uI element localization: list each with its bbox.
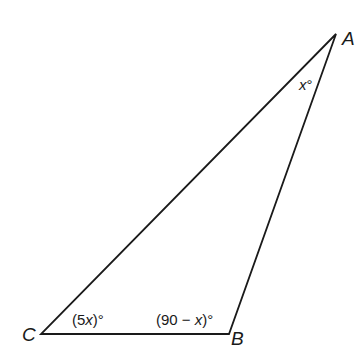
angle-c-prefix: (5 [72, 311, 85, 328]
vertex-label-c: C [22, 324, 36, 345]
vertex-label-b: B [231, 328, 244, 349]
vertex-label-a: A [341, 28, 355, 49]
triangle-abc [41, 34, 336, 334]
angle-a-suffix: ° [307, 76, 313, 93]
angle-label-b: (90 − x)° [156, 311, 213, 328]
angle-label-c: (5x)° [72, 311, 104, 328]
angle-b-prefix: (90 − [156, 311, 195, 328]
angle-label-a: x° [298, 76, 313, 93]
triangle-diagram: A B C x° (5x)° (90 − x)° [0, 0, 363, 352]
angle-b-suffix: )° [202, 311, 213, 328]
angle-c-suffix: )° [93, 311, 104, 328]
